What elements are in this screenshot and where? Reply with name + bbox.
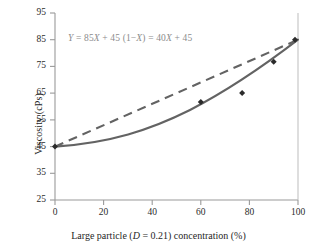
x-tick-label: 80: [245, 208, 255, 218]
equation-part-2: = 85: [73, 33, 93, 43]
x-tick-label: 100: [291, 208, 305, 218]
y-tick-label: 35: [24, 169, 46, 179]
linear-mixing-rule-line: [55, 40, 298, 147]
mixing-rule-equation-annotation: Y = 85X + 45 (1−X) = 40X + 45: [68, 33, 192, 43]
y-tick-label: 95: [24, 8, 46, 18]
y-tick-label: 75: [24, 62, 46, 72]
equation-part-4: + 45 (1−: [100, 33, 137, 43]
y-tick-label: 85: [24, 35, 46, 45]
y-axis-title-text: Viscosity (cPs): [33, 93, 44, 155]
x-tick-label: 20: [99, 208, 109, 218]
x-tick-marks: [55, 200, 298, 205]
x-tick-label: 40: [147, 208, 157, 218]
viscosity-concentration-chart: 95 85 75 65 55 45 35 25 0 20 40 60 80 10…: [0, 0, 317, 247]
data-point-marker: [52, 144, 58, 150]
x-tick-label: 60: [196, 208, 206, 218]
x-tick-label: 0: [53, 208, 58, 218]
y-axis-title: Viscosity (cPs): [33, 93, 44, 155]
equation-part-8: + 45: [172, 33, 192, 43]
y-tick-marks: [50, 13, 55, 200]
equation-part-6: ) = 40: [142, 33, 166, 43]
x-axis-title-prefix: Large particle (: [71, 230, 132, 241]
x-axis-title-suffix: = 0.21) concentration (%): [140, 230, 246, 241]
data-point-marker: [239, 90, 245, 96]
x-axis-title: Large particle (D = 0.21) concentration …: [0, 230, 317, 241]
y-tick-label: 25: [24, 195, 46, 205]
x-axis-title-symbol: D: [133, 230, 140, 241]
